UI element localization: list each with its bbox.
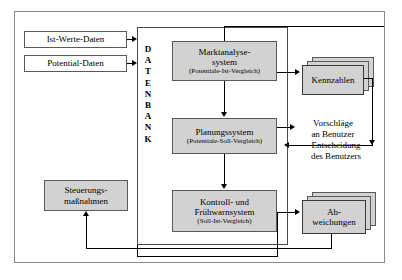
system-box-kontroll-und-fruehwarnsystem: Kontroll- und Frühwarnsystem (Soll-Ist-V… <box>172 190 277 232</box>
connector-markt-top-riser <box>224 26 225 41</box>
annotation-entscheidung-des-benutzers: Entscheidung des Benutzers <box>295 140 377 162</box>
database-letter: A <box>140 111 156 122</box>
measures-label-line1: Steuerungs- <box>65 185 108 195</box>
arrowhead-into-measures <box>83 211 89 216</box>
input-label: Ist-Werte-Daten <box>47 34 105 44</box>
database-letter: T <box>140 66 156 77</box>
connector-markt-to-planung <box>224 81 225 112</box>
output-box-kennzahlen: Kennzahlen <box>302 65 364 95</box>
connector-kontroll-feedback-left <box>137 256 278 257</box>
diagram-canvas: D A T E N B A N K Ist-Werte-Daten Potent… <box>0 0 402 280</box>
system-subtitle: (Potentiale-Ist-Vergleich) <box>189 68 260 76</box>
connector-abweichungen-to-measures <box>86 248 332 249</box>
connector-markt-top-to-right-frame <box>224 26 384 27</box>
output-label-line2: weichungen <box>312 217 355 227</box>
connector-right-bus-vertical <box>372 78 373 145</box>
system-box-planungssystem: Planungssystem (Potentiale-Soll-Vergleic… <box>172 118 277 154</box>
connector-kontroll-to-abweichungen <box>277 212 296 213</box>
connector-kontroll-feedback-down <box>277 212 278 256</box>
system-box-marktanalysesystem: Marktanalyse- system (Potentiale-Ist-Ver… <box>172 41 277 81</box>
system-subtitle: (Soll-Ist-Vergleich) <box>197 218 251 226</box>
database-label: D A T E N B A N K <box>140 44 156 145</box>
connector-markt-to-kennzahlen <box>277 72 296 73</box>
annotation-line2: des Benutzers <box>295 151 377 162</box>
database-letter: B <box>140 100 156 111</box>
system-subtitle: (Potentiale-Soll-Vergleich) <box>187 138 262 146</box>
database-letter: K <box>140 134 156 145</box>
system-title: Planungssystem <box>195 127 253 137</box>
measures-box-steuerungsmassnahmen: Steuerungs- maßnahmen <box>44 180 128 211</box>
database-letter: E <box>140 78 156 89</box>
database-letter: D <box>140 44 156 55</box>
connector-kontroll-feedback-into-db <box>137 245 138 257</box>
connector-measures-riser <box>86 216 87 249</box>
database-letter: N <box>140 122 156 133</box>
annotation-line1: Vorschläge <box>295 118 371 129</box>
arrowhead-entscheidung-to-planung <box>284 142 289 148</box>
system-title: Kontroll- und <box>200 197 249 207</box>
annotation-line2: an Benutzer <box>295 129 371 140</box>
output-stack-abweichungen: Ab- weichungen <box>302 192 382 240</box>
annotation-line1: Entscheidung <box>295 140 377 151</box>
arrowhead-markt-to-kennzahlen <box>295 69 300 75</box>
connector-planung-to-vorschlaege <box>277 127 291 128</box>
input-label: Potential-Daten <box>47 58 103 68</box>
system-title-line2: Frühwarnsystem <box>195 207 255 217</box>
input-box-ist-werte-daten: Ist-Werte-Daten <box>24 31 127 48</box>
output-label-line1: Ab- <box>327 207 341 217</box>
connector-abweichungen-down <box>331 234 332 249</box>
arrowhead-kontroll-to-abweichungen <box>295 209 300 215</box>
output-box-abweichungen: Ab- weichungen <box>302 200 366 234</box>
arrowhead-markt-to-planung <box>221 112 227 117</box>
arrowhead-ist-werte-to-db <box>132 36 137 42</box>
measures-label-line2: maßnahmen <box>64 196 108 206</box>
annotation-vorschlaege-an-benutzer: Vorschläge an Benutzer <box>295 118 371 140</box>
arrowhead-potential-to-db <box>132 60 137 66</box>
output-stack-kennzahlen: Kennzahlen <box>302 57 378 101</box>
system-title: Marktanalyse- <box>199 47 251 57</box>
arrowhead-planung-to-kontroll <box>221 184 227 189</box>
database-letter: A <box>140 55 156 66</box>
connector-planung-to-kontroll <box>224 154 225 184</box>
database-letter: N <box>140 89 156 100</box>
output-label: Kennzahlen <box>312 75 355 85</box>
system-title-line2: system <box>212 57 237 67</box>
input-box-potential-daten: Potential-Daten <box>24 55 127 72</box>
